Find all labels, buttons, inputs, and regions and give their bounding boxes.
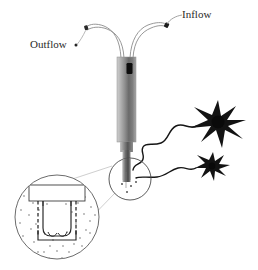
tip-particle [121, 183, 123, 185]
tip-particle [126, 191, 128, 193]
inflow-label: Inflow [182, 8, 211, 20]
tip-particle [135, 181, 137, 183]
neuron-small-soma [209, 163, 216, 170]
probe-body-block [29, 185, 85, 201]
tip-particle [130, 185, 132, 187]
outflow-label: Outflow [30, 38, 67, 50]
microdialysis-diagram: Outflow Inflow [0, 0, 258, 270]
probe-window [127, 63, 133, 74]
neuron-large-soma [212, 116, 225, 129]
figure-root: Outflow Inflow [0, 0, 258, 270]
